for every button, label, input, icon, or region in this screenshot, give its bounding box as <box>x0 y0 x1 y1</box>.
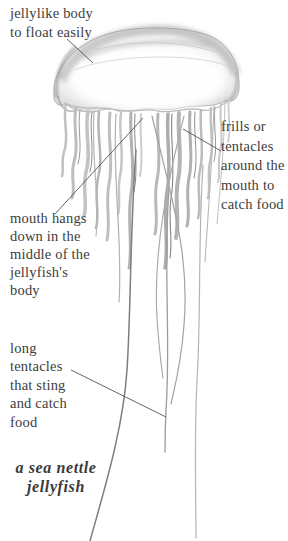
label-line: down in the <box>10 227 90 245</box>
sketch-stroke <box>140 114 142 176</box>
label-frills: frills or tentacles around the mouth to … <box>221 117 285 215</box>
label-line: body <box>10 281 90 299</box>
sketch-stroke <box>170 114 173 258</box>
label-line: mouth to <box>221 176 285 196</box>
label-jellylike-body: jellylike body to float easily <box>10 4 93 42</box>
label-line: tentacles <box>10 357 67 375</box>
label-line: around the <box>221 156 285 176</box>
label-line: tentacles <box>221 137 285 157</box>
caption-sea-nettle-jellyfish: a sea nettle jellyfish <box>4 459 108 496</box>
sketch-stroke <box>84 111 88 216</box>
label-line: frills or <box>221 117 285 137</box>
sketch-stroke <box>78 110 80 164</box>
sketch-stroke <box>214 107 216 162</box>
label-line: middle of the <box>10 245 90 263</box>
label-line: jellylike body <box>10 4 93 23</box>
label-line: long <box>10 339 67 357</box>
sketch-stroke <box>62 104 66 176</box>
label-line: food <box>10 413 67 431</box>
bell-highlight <box>70 50 226 110</box>
sketch-stroke <box>195 165 203 538</box>
sketch-stroke <box>118 113 122 214</box>
leader-line-long-tentacles <box>71 370 166 417</box>
label-line: that sting <box>10 376 67 394</box>
label-line: to float easily <box>10 23 93 42</box>
sketch-stroke <box>93 112 97 236</box>
label-long-tentacles: long tentacles that sting and catch food <box>10 339 67 431</box>
sketch-stroke <box>107 113 111 240</box>
sketch-stroke <box>194 112 196 178</box>
sketch-stroke <box>90 112 92 172</box>
jellyfish-diagram: jellylike body to float easily frills or… <box>0 0 288 541</box>
label-line: and catch <box>10 394 67 412</box>
sketch-stroke <box>72 108 76 198</box>
label-line: jellyfish's <box>10 263 90 281</box>
label-line: mouth hangs <box>10 209 90 227</box>
caption-line: jellyfish <box>4 478 108 497</box>
sketch-stroke <box>187 112 191 226</box>
label-line: catch food <box>221 195 285 215</box>
label-mouth: mouth hangs down in the middle of the je… <box>10 209 90 299</box>
caption-line: a sea nettle <box>4 459 108 478</box>
